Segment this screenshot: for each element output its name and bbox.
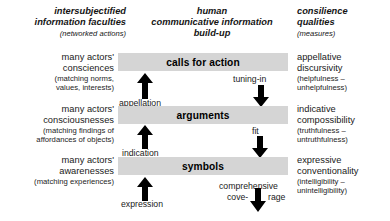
quality-appellative-discursivity-line1: appellative <box>297 52 389 63</box>
column-header-qualities-line1: consilience <box>297 6 389 17</box>
band-arguments: arguments <box>118 106 288 124</box>
column-header-buildup-line3: build-up <box>131 28 293 39</box>
column-header-buildup: human communicative information build-up <box>131 6 293 40</box>
faculty-consciences-paren-line2: values, interests) <box>4 83 114 92</box>
faculty-awarenesses-line1: many actors' <box>0 155 114 166</box>
arrow-up-indication-icon <box>136 125 154 149</box>
quality-indicative-compossibility-line1: indicative <box>297 104 389 115</box>
faculty-consciousnesses-paren-line1: (matching findings of <box>0 126 114 135</box>
column-header-faculties: intersubjectified information faculties … <box>4 6 126 40</box>
quality-expressive-conventionality-line2: conventionality <box>297 166 389 177</box>
quality-expressive-conventionality-paren-line1: (intelligibility – <box>297 177 389 186</box>
faculty-awarenesses-paren-line1: (matching experiences) <box>0 177 114 186</box>
quality-expressive-conventionality-line1: expressive <box>297 155 389 166</box>
quality-indicative-compossibility-paren-line1: (truthfulness – <box>297 126 389 135</box>
quality-appellative-discursivity: appellative discursivity (helpfulness – … <box>297 52 389 93</box>
faculty-consciousnesses: many actors' consciousnesses (matching f… <box>0 104 114 145</box>
band-calls-for-action: calls for action <box>118 53 288 71</box>
column-header-qualities-line2: qualities <box>297 17 389 28</box>
faculty-consciousnesses-line2: consciousnesses <box>0 115 114 126</box>
arrow-expression-label: expression <box>121 199 163 209</box>
arrow-fit-label: fit <box>252 126 259 136</box>
arrow-up-expression-icon <box>136 177 154 201</box>
faculty-consciences-paren-line1: (matching norms, <box>4 74 114 83</box>
arrow-down-tuning-in-icon <box>252 85 270 107</box>
arrow-up-appellation-icon <box>136 73 154 99</box>
quality-indicative-compossibility: indicative compossibility (truthfulness … <box>297 104 389 145</box>
arrow-down-fit-icon <box>251 136 269 158</box>
band-calls-for-action-label: calls for action <box>166 57 240 68</box>
column-header-faculties-sub: (networked actions) <box>4 28 126 39</box>
column-header-buildup-line1: human <box>131 6 293 17</box>
band-arguments-label: arguments <box>177 110 230 121</box>
arrow-down-coverage-icon <box>249 188 267 212</box>
quality-indicative-compossibility-paren-line2: untruthfulness) <box>297 135 389 144</box>
quality-appellative-discursivity-line2: discursivity <box>297 63 389 74</box>
quality-expressive-conventionality-paren-line2: unintelligibility) <box>297 186 389 195</box>
quality-appellative-discursivity-paren-line2: unhelpfulness) <box>297 83 389 92</box>
faculty-consciousnesses-paren-line2: affordances of objects) <box>0 135 114 144</box>
faculty-awarenesses: many actors' awarenesses (matching exper… <box>0 155 114 186</box>
faculty-awarenesses-line2: awarenesses <box>0 166 114 177</box>
faculty-consciences-line2: consciences <box>4 63 114 74</box>
column-header-qualities: consilience qualities (measures) <box>297 6 389 40</box>
faculty-consciences-line1: many actors' <box>4 52 114 63</box>
quality-indicative-compossibility-line2: compossibility <box>297 115 389 126</box>
faculty-consciences: many actors' consciences (matching norms… <box>4 52 114 93</box>
quality-expressive-conventionality: expressive conventionality (intelligibil… <box>297 155 389 196</box>
diagram-canvas: intersubjectified information faculties … <box>0 0 390 221</box>
arrow-coverage-label-left: cove- <box>227 192 248 202</box>
column-header-faculties-line1: intersubjectified <box>4 6 126 17</box>
arrow-tuning-in-label: tuning-in <box>233 74 266 84</box>
faculty-consciousnesses-line1: many actors' <box>0 104 114 115</box>
quality-appellative-discursivity-paren-line1: (helpfulness – <box>297 74 389 83</box>
band-symbols: symbols <box>118 157 288 175</box>
band-symbols-label: symbols <box>182 161 224 172</box>
column-header-buildup-line2: communicative information <box>131 17 293 28</box>
column-header-qualities-sub: (measures) <box>297 28 389 39</box>
arrow-coverage-label-right: rage <box>268 192 285 202</box>
column-header-faculties-line2: information faculties <box>4 17 126 28</box>
